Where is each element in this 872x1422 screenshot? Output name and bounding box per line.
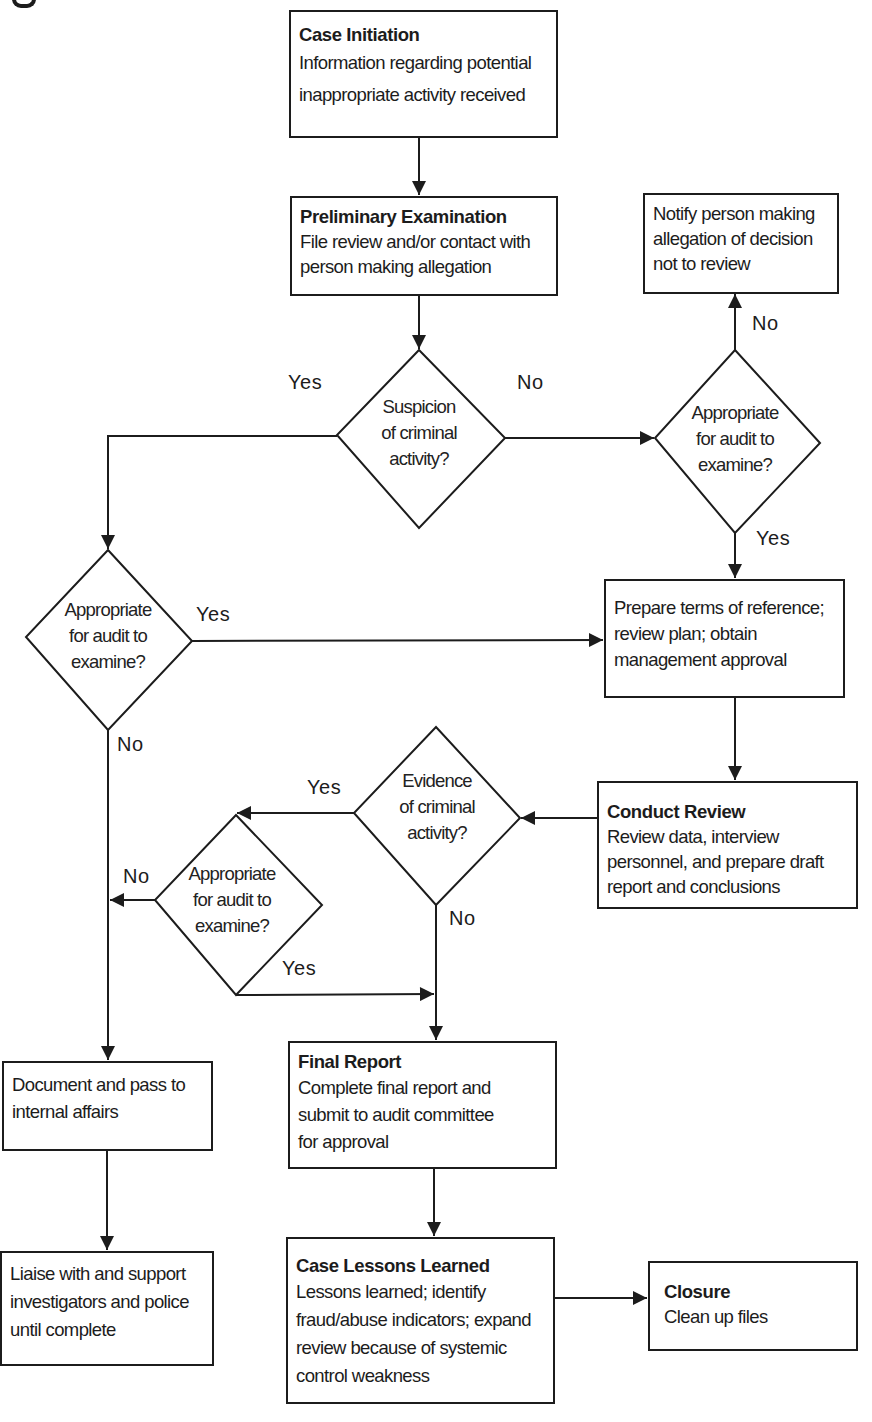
closure-body: Clean up files (664, 1304, 848, 1329)
closure-title: Closure (664, 1279, 848, 1304)
final-report-body: Complete final report and submit to audi… (298, 1074, 547, 1155)
right-audit-no-label: No (752, 312, 779, 335)
lessons-learned-title: Case Lessons Learned (296, 1253, 545, 1278)
suspicion-decision-text: Suspicion of criminal activity? (359, 394, 479, 472)
right-audit-yes-label: Yes (756, 527, 790, 550)
evidence-no-label: No (449, 907, 476, 930)
left-audit-yes-label: Yes (196, 603, 230, 626)
prepare-terms-body: Prepare terms of reference; review plan;… (614, 595, 835, 673)
preliminary-examination-body: File review and/or contact with person m… (300, 229, 548, 279)
left-audit-no-label: No (117, 733, 144, 756)
edge-suspicion-yes (108, 436, 337, 549)
case-initiation-body: Information regarding potential inapprop… (299, 47, 548, 111)
final-report-title: Final Report (298, 1049, 547, 1074)
evidence-yes-label: Yes (307, 776, 341, 799)
document-pass-box: Document and pass to internal affairs (2, 1061, 213, 1151)
liaise-support-body: Liaise with and support investigators an… (10, 1260, 204, 1344)
conduct-review-box: Conduct Review Review data, interview pe… (597, 781, 858, 909)
liaise-support-box: Liaise with and support investigators an… (0, 1251, 214, 1366)
case-initiation-title: Case Initiation (299, 22, 548, 47)
middle-audit-yes-label: Yes (282, 957, 316, 980)
audit-investigation-flowchart: Case Initiation Information regarding po… (0, 0, 872, 1422)
notify-person-box: Notify person making allegation of decis… (643, 193, 839, 294)
lessons-learned-body: Lessons learned; identify fraud/abuse in… (296, 1278, 545, 1390)
final-report-box: Final Report Complete final report and s… (288, 1041, 557, 1169)
appropriate-audit-left-text: Appropriate for audit to examine? (48, 597, 168, 675)
prepare-terms-box: Prepare terms of reference; review plan;… (604, 579, 845, 698)
suspicion-no-label: No (517, 371, 544, 394)
evidence-decision-text: Evidence of criminal activity? (377, 768, 497, 846)
suspicion-yes-label: Yes (288, 371, 322, 394)
appropriate-audit-right-text: Appropriate for audit to examine? (675, 400, 795, 478)
lessons-learned-box: Case Lessons Learned Lessons learned; id… (286, 1237, 555, 1404)
conduct-review-title: Conduct Review (607, 799, 848, 824)
edge-left-audit-yes (192, 640, 603, 641)
closure-box: Closure Clean up files (648, 1261, 858, 1351)
case-initiation-box: Case Initiation Information regarding po… (289, 10, 558, 138)
notify-person-body: Notify person making allegation of decis… (653, 201, 829, 276)
conduct-review-body: Review data, interview personnel, and pr… (607, 824, 848, 899)
preliminary-examination-box: Preliminary Examination File review and/… (290, 196, 558, 296)
edge-middle-audit-yes (236, 994, 434, 995)
document-pass-body: Document and pass to internal affairs (12, 1071, 203, 1125)
appropriate-audit-middle-text: Appropriate for audit to examine? (172, 861, 292, 939)
preliminary-examination-title: Preliminary Examination (300, 204, 548, 229)
middle-audit-no-label: No (123, 865, 150, 888)
